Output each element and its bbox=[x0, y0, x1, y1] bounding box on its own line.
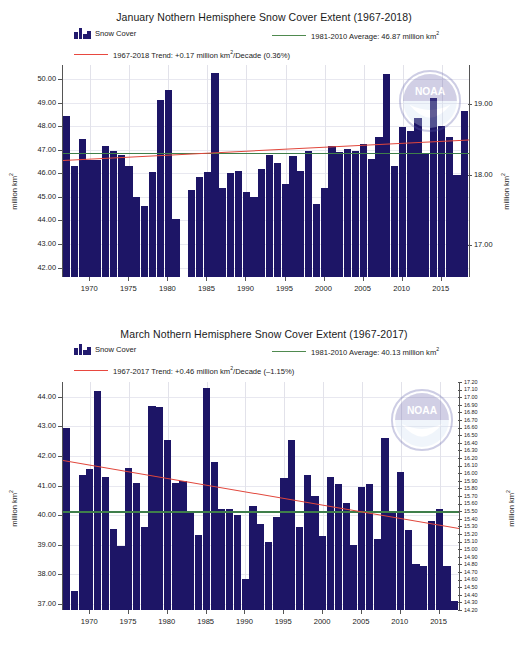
legend-item-trend: 1967-2018 Trend: +0.17 million km2/Decad… bbox=[74, 49, 290, 60]
y-tick-mark-right bbox=[458, 534, 462, 535]
x-tick-label: 2010 bbox=[391, 617, 408, 626]
bar bbox=[430, 98, 437, 277]
gridline-horizontal bbox=[63, 79, 469, 80]
y-axis-label-right-march: million km2 bbox=[505, 490, 516, 527]
bar bbox=[282, 184, 289, 277]
bar bbox=[71, 166, 78, 277]
average-line bbox=[63, 153, 469, 154]
legend-label-snow-cover-march: Snow Cover bbox=[95, 345, 136, 354]
average-line-swatch-icon bbox=[272, 351, 306, 352]
bar bbox=[313, 204, 320, 277]
bar bbox=[187, 512, 194, 610]
bar bbox=[117, 546, 124, 610]
y-tick-mark-right bbox=[458, 595, 462, 596]
y-tick-label-left: 45.00 bbox=[20, 192, 56, 201]
x-tick-mark bbox=[89, 610, 90, 614]
x-tick-mark bbox=[244, 610, 245, 614]
x-tick-mark bbox=[441, 277, 442, 281]
page-title: January Nothern Hemisphere Snow Cover Ex… bbox=[0, 0, 528, 23]
bar bbox=[243, 192, 250, 277]
y-tick-label-right: 15.20 bbox=[464, 531, 478, 537]
y-tick-mark-right bbox=[458, 435, 462, 436]
y-tick-label-right: 15.90 bbox=[464, 478, 478, 484]
bar bbox=[195, 535, 202, 611]
x-tick-mark bbox=[167, 610, 168, 614]
x-tick-mark bbox=[363, 277, 364, 281]
x-tick-label: 1980 bbox=[158, 617, 175, 626]
y-tick-mark-right bbox=[458, 580, 462, 581]
legend-item-trend-march: 1967-2017 Trend: +0.46 million km2/Decad… bbox=[74, 365, 294, 376]
y-tick-mark-right bbox=[458, 443, 462, 444]
bar bbox=[297, 171, 304, 277]
bar bbox=[336, 152, 343, 277]
bar bbox=[211, 73, 218, 277]
x-tick-label: 1975 bbox=[120, 284, 137, 293]
bar bbox=[266, 155, 273, 277]
bar bbox=[296, 527, 303, 610]
plot-area-march: million km2 million km2 NOAA 19701975198… bbox=[0, 380, 528, 635]
y-tick-mark-left bbox=[58, 268, 62, 269]
y-tick-mark-right bbox=[458, 481, 462, 482]
bar bbox=[125, 468, 132, 610]
y-tick-label-left: 47.00 bbox=[20, 145, 56, 154]
x-tick-label: 2015 bbox=[430, 617, 447, 626]
bar bbox=[149, 172, 156, 277]
y-tick-mark-right bbox=[458, 466, 462, 467]
y-tick-label-right: 16.80 bbox=[464, 409, 478, 415]
x-tick-mark bbox=[167, 277, 168, 281]
y-tick-label-right: 16.20 bbox=[464, 455, 478, 461]
y-tick-label-right: 16.70 bbox=[464, 417, 478, 423]
y-tick-label-right: 16.50 bbox=[464, 432, 478, 438]
y-tick-label-left: 46.00 bbox=[20, 168, 56, 177]
y-tick-mark-right bbox=[458, 587, 462, 588]
y-tick-mark-right bbox=[458, 488, 462, 489]
bar bbox=[172, 483, 179, 610]
y-tick-label-right: 16.00 bbox=[464, 470, 478, 476]
y-tick-mark-left bbox=[58, 426, 62, 427]
bar bbox=[443, 566, 450, 610]
bar bbox=[344, 149, 351, 277]
legend-item-average-march: 1981-2010 Average: 40.13 million km2 bbox=[272, 346, 439, 357]
legend-label-trend: 1967-2018 Trend: +0.17 million km2/Decad… bbox=[113, 49, 290, 60]
bar bbox=[446, 137, 453, 277]
x-tick-label: 1990 bbox=[236, 617, 253, 626]
x-tick-label: 2010 bbox=[393, 284, 410, 293]
y-tick-label-right: 15.80 bbox=[464, 485, 478, 491]
bar bbox=[118, 155, 125, 277]
y-tick-mark-right bbox=[468, 175, 472, 176]
y-tick-label-right: 15.70 bbox=[464, 493, 478, 499]
y-tick-mark-right bbox=[468, 104, 472, 105]
average-line bbox=[63, 511, 459, 512]
y-tick-mark-right bbox=[458, 412, 462, 413]
bar bbox=[102, 146, 109, 277]
bar bbox=[397, 472, 404, 610]
bar bbox=[399, 127, 406, 277]
bar bbox=[335, 484, 342, 610]
bar bbox=[249, 506, 256, 610]
bar bbox=[219, 188, 226, 278]
plot-canvas-march bbox=[62, 382, 460, 610]
bar bbox=[274, 163, 281, 277]
bar bbox=[226, 509, 233, 610]
bar bbox=[319, 536, 326, 610]
y-tick-mark-right bbox=[458, 511, 462, 512]
y-tick-label-left: 44.00 bbox=[20, 392, 56, 401]
bar bbox=[110, 529, 117, 610]
y-tick-label-right: 14.70 bbox=[464, 569, 478, 575]
y-tick-label-right: 15.50 bbox=[464, 508, 478, 514]
bar bbox=[196, 177, 203, 277]
y-tick-mark-right bbox=[458, 473, 462, 474]
y-axis-label-left-march: million km2 bbox=[8, 490, 19, 527]
bar bbox=[273, 517, 280, 610]
bar bbox=[374, 539, 381, 610]
bar bbox=[305, 151, 312, 277]
bar bbox=[179, 481, 186, 610]
bar bbox=[321, 188, 328, 278]
y-tick-label-right: 14.30 bbox=[464, 599, 478, 605]
legend-item-snow-cover: Snow Cover bbox=[74, 28, 136, 39]
y-tick-label-right: 14.80 bbox=[464, 561, 478, 567]
x-tick-mark bbox=[89, 277, 90, 281]
y-tick-label-right: 14.40 bbox=[464, 592, 478, 598]
bar bbox=[86, 160, 93, 277]
gridline-horizontal bbox=[63, 456, 459, 457]
